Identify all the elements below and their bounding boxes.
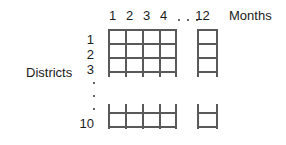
column-ellipsis-dot-1 <box>178 19 180 21</box>
column-header-4: 4 <box>159 9 168 22</box>
column-header-3: 3 <box>142 9 151 22</box>
row-header-3: 3 <box>72 63 94 76</box>
row-ellipsis-dot-2 <box>93 95 95 97</box>
row-header-2: 2 <box>72 48 94 61</box>
row-ellipsis-dot-1 <box>93 82 95 84</box>
districts-axis-label: Districts <box>26 66 72 79</box>
column-ellipsis-dot-2 <box>187 19 189 21</box>
grid-diagram: 1 2 3 4 12 Months Districts 1 2 3 10 <box>0 0 286 145</box>
row-header-1: 1 <box>72 33 94 46</box>
months-axis-label: Months <box>229 9 272 22</box>
column-header-2: 2 <box>125 9 134 22</box>
row-header-10: 10 <box>72 117 94 130</box>
row-ellipsis-dot-3 <box>93 108 95 110</box>
column-header-1: 1 <box>108 9 117 22</box>
column-ellipsis-dot-3 <box>196 19 198 21</box>
